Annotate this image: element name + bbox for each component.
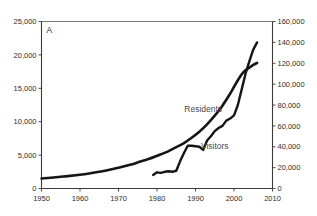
y-axis-right-tick-label: 160,000 [278,17,305,26]
y-axis-right-tick-label: 60,000 [278,122,301,131]
y-axis-right-tick-label: 140,000 [278,38,305,47]
y-axis-left-tick-label: 0 [32,184,36,193]
y-axis-right-tick-label: 120,000 [278,59,305,68]
y-axis-left-tick-label: 5,000 [18,151,37,160]
x-axis-tick-label: 2010 [264,194,281,203]
y-axis-right-tick-label: 40,000 [278,142,301,151]
y-axis-right-tick-label: 100,000 [278,80,305,89]
y-axis-left-tick-label: 25,000 [14,17,37,26]
panel-label: A [47,25,53,35]
y-axis-left-tick-label: 15,000 [14,84,37,93]
x-axis-tick-label: 1970 [110,194,127,203]
chart-figure: 05,00010,00015,00020,00025,000020,00040,… [0,0,317,216]
y-axis-right-tick-label: 20,000 [278,163,301,172]
x-axis-tick-label: 1950 [33,194,50,203]
y-axis-right-tick-label: 0 [278,184,282,193]
series-label-residents: Residents [184,104,222,114]
y-axis-left-tick-label: 20,000 [14,51,37,60]
y-axis-left-tick-label: 10,000 [14,117,37,126]
x-axis-tick-label: 1980 [149,194,166,203]
x-axis-tick-label: 2000 [226,194,243,203]
series-line-residents [42,63,258,179]
x-axis-tick-label: 1990 [187,194,204,203]
chart-plot-area: 05,00010,00015,00020,00025,000020,00040,… [0,0,317,216]
y-axis-right-tick-label: 80,000 [278,101,301,110]
x-axis-tick-label: 1960 [72,194,89,203]
series-label-visitors: Visitors [201,141,229,151]
